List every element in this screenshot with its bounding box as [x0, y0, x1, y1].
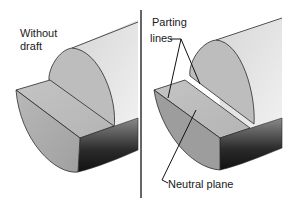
label-without: Without	[20, 27, 57, 39]
label-neutral-plane: Neutral plane	[168, 178, 233, 190]
draft-diagram: Without draft Parting lines Neutral plan…	[0, 0, 291, 203]
right-part-with-draft: Parting lines Neutral plane	[150, 16, 282, 190]
label-lines: lines	[150, 32, 173, 44]
left-part-without-draft: Without draft	[16, 20, 138, 172]
label-draft: draft	[20, 40, 42, 52]
label-parting: Parting	[152, 16, 187, 28]
